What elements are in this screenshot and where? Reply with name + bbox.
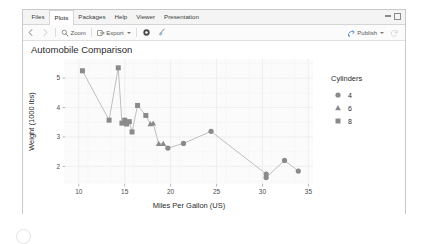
data-point-square (130, 129, 135, 134)
tab-viewer[interactable]: Viewer (132, 10, 160, 24)
export-label: Export (106, 30, 123, 36)
data-point-square (135, 103, 140, 108)
tick-label-x: 10 (75, 188, 83, 195)
toolbar-right-group: Publish (344, 25, 402, 41)
data-point-square (143, 113, 148, 118)
x-axis-label: Miles Per Gallon (US) (153, 201, 226, 210)
chart-title: Automobile Comparison (31, 44, 132, 55)
overflow-indicator-icon (16, 229, 31, 244)
tick-label-x: 35 (305, 188, 313, 195)
data-point-square (80, 68, 85, 73)
toolbar-divider (55, 28, 56, 37)
toolbar-divider (136, 28, 137, 37)
export-icon (97, 29, 105, 37)
tick-label-y: 3 (56, 133, 60, 140)
chevron-down-icon[interactable] (380, 32, 384, 34)
export-button[interactable]: Export (94, 26, 134, 40)
plots-pane-window: Files Plots Packages Help Viewer Present… (22, 9, 406, 214)
zoom-button[interactable]: Zoom (58, 26, 89, 40)
clear-plots-button[interactable] (154, 26, 169, 40)
magnifier-icon (61, 29, 69, 37)
pane-tab-bar: Files Plots Packages Help Viewer Present… (23, 10, 405, 25)
back-arrow-icon[interactable] (23, 26, 38, 40)
refresh-icon[interactable] (387, 26, 402, 40)
window-controls (385, 13, 401, 20)
data-point-square (116, 65, 121, 70)
tick-label-y: 4 (56, 104, 60, 111)
forward-arrow-icon[interactable] (38, 26, 53, 40)
tick-label-x: 30 (259, 188, 267, 195)
tab-presentation[interactable]: Presentation (160, 10, 204, 24)
tab-packages[interactable]: Packages (74, 10, 110, 24)
tick-label-y: 2 (56, 163, 60, 170)
legend-title: Cylinders (331, 74, 363, 83)
data-point-circle (165, 146, 170, 151)
y-axis-label: Weight (1000 lbs) (27, 92, 36, 151)
legend-label: 6 (348, 105, 352, 112)
zoom-label: Zoom (71, 30, 86, 36)
data-point-square (127, 119, 132, 124)
publish-icon (347, 29, 356, 38)
publish-label: Publish (357, 30, 377, 36)
data-point-circle (296, 168, 301, 173)
legend-marker-square (336, 119, 341, 124)
publish-button[interactable]: Publish (344, 26, 387, 40)
minimize-icon[interactable] (385, 15, 391, 18)
tab-help[interactable]: Help (110, 10, 132, 24)
remove-plot-button[interactable] (139, 26, 154, 40)
tick-label-y: 5 (56, 74, 60, 81)
plots-toolbar: Zoom Export (23, 25, 405, 41)
broom-icon (157, 28, 166, 37)
chevron-down-icon[interactable] (127, 32, 131, 34)
legend-marker-circle (335, 92, 340, 97)
data-point-square (107, 118, 112, 123)
legend-label: 8 (348, 118, 352, 125)
tick-label-x: 25 (213, 188, 221, 195)
plot-canvas: Automobile Comparison1015202530352345Mil… (23, 41, 405, 214)
data-point-circle (181, 141, 186, 146)
data-point-circle (282, 158, 287, 163)
tab-files[interactable]: Files (27, 10, 49, 24)
gear-icon (142, 28, 151, 37)
toolbar-divider (91, 28, 92, 37)
data-point-circle (208, 129, 213, 134)
automobile-comparison-chart: Automobile Comparison1015202530352345Mil… (23, 41, 405, 214)
maximize-icon[interactable] (394, 13, 401, 20)
legend-marker-triangle (335, 105, 341, 110)
legend-label: 4 (348, 92, 352, 99)
tab-plots[interactable]: Plots (49, 10, 74, 25)
tick-label-x: 20 (167, 188, 175, 195)
tick-label-x: 15 (121, 188, 129, 195)
data-point-circle (264, 175, 269, 180)
